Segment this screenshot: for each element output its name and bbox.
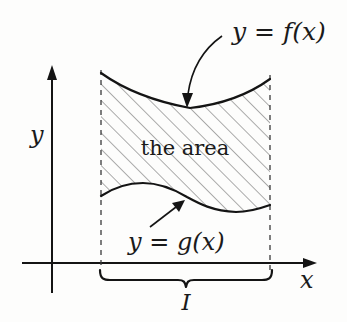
g-label-arrowhead bbox=[172, 200, 185, 212]
interval-label: I bbox=[180, 289, 191, 315]
x-axis-label: x bbox=[300, 266, 314, 294]
area-between-curves-figure: y = f(x) y = g(x) the area y x I bbox=[0, 0, 347, 322]
f-label-arrow-line bbox=[188, 36, 222, 94]
lower-curve-label: y = g(x) bbox=[127, 228, 225, 256]
y-axis-label: y bbox=[29, 121, 44, 149]
y-axis-arrowhead bbox=[47, 65, 57, 80]
g-label-arrow-line bbox=[150, 207, 176, 227]
interval-brace-group: I bbox=[100, 270, 272, 315]
upper-curve-label: y = f(x) bbox=[231, 17, 326, 46]
diagram-canvas: y = f(x) y = g(x) the area y x I bbox=[0, 0, 347, 322]
region-label: the area bbox=[141, 136, 230, 160]
interval-brace bbox=[100, 270, 272, 287]
